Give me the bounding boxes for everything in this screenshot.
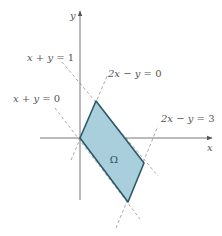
region-label: Ω [110,154,118,165]
label-2x-minus-y-eq-3: 2x − y = 3 [160,113,215,124]
y-axis-label: y [69,10,76,21]
label-2x-minus-y-eq-0: 2x − y = 0 [107,68,162,79]
x-axis-label: x [207,142,213,153]
region-diagram: x y Ω x + y = 1 x + y = 0 2x − y = 0 2x … [0,0,222,236]
region-omega [80,101,144,202]
label-x-plus-y-eq-1: x + y = 1 [27,52,74,63]
label-x-plus-y-eq-0: x + y = 0 [13,93,60,104]
